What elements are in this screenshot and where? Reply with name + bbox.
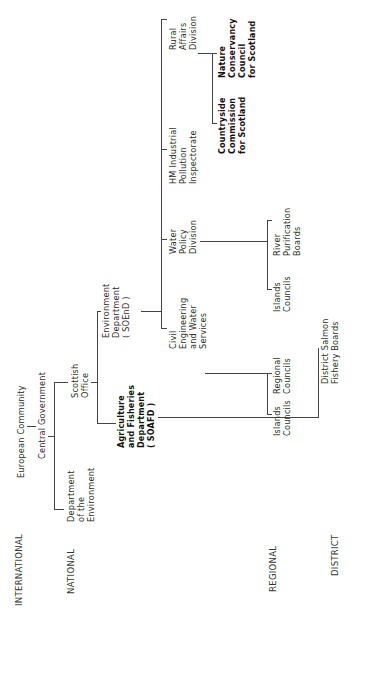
node-european-community: European Community (16, 385, 26, 478)
connector-so-bar (97, 311, 98, 424)
connector-doe (54, 509, 64, 510)
connector-wpd (161, 239, 167, 240)
node-soend: Environment Department ( SOEnD ) (101, 284, 131, 338)
node-hm-industrial-pollution-inspectorate: HM Industrial Pollution Inspectorate (168, 127, 198, 184)
connector-soafd-down (158, 417, 318, 418)
node-regional-councils: Regional Councils (272, 357, 292, 394)
node-central-government: Central Government (37, 372, 47, 459)
organisation-chart: INTERNATIONAL NATIONAL REGIONAL DISTRICT… (0, 0, 367, 674)
connector-rad (161, 19, 167, 20)
connector-soend-down (141, 311, 161, 312)
node-rural-affairs-division: Rural Affairs Division (168, 16, 198, 50)
node-river-purification-boards: River Purification Boards (272, 208, 302, 256)
connector-cews-to-councils (205, 373, 267, 374)
connector-rad-bar (212, 53, 213, 124)
node-islands-councils-1: Islands Councils (272, 400, 292, 436)
node-scottish-office: Scottish Office (70, 364, 90, 398)
connector-hmipi (161, 149, 167, 150)
connector-rad-down (198, 53, 212, 54)
connector-so (54, 382, 68, 383)
connector-wpd-bar (267, 220, 268, 290)
connector-councils-bar (267, 373, 268, 415)
level-international: INTERNATIONAL (14, 534, 24, 606)
connector-soafd-district (318, 348, 319, 418)
connector-nature (212, 53, 217, 54)
connector-ec-cg (27, 426, 36, 427)
level-national: NATIONAL (66, 549, 76, 594)
connector-countryside (212, 123, 217, 124)
level-regional: REGIONAL (268, 546, 278, 592)
node-soafd: Agriculture and Fisheries Department ( S… (117, 385, 157, 448)
connector-soend-bar (161, 19, 162, 329)
node-nature-conservancy-council: Nature Conservancy Council for Scotland (218, 18, 258, 78)
node-countryside-commission: Countryside Commission for Scotland (218, 97, 248, 155)
node-district-salmon-fishery-boards: District Salmon Fishery Boards (320, 318, 340, 384)
connector-wpd-down (200, 241, 267, 242)
connector-cews (161, 328, 167, 329)
node-water-policy-division: Water Policy Division (168, 220, 198, 254)
node-department-of-environment: Department of the Environment (66, 468, 96, 522)
connector-cg-bar (54, 382, 55, 510)
connector-soafd (97, 423, 116, 424)
level-district: DISTRICT (330, 534, 340, 576)
node-civil-engineering-water-services: Civil Engineering and Water Services (168, 298, 208, 349)
node-islands-councils-2: Islands Councils (272, 276, 292, 312)
